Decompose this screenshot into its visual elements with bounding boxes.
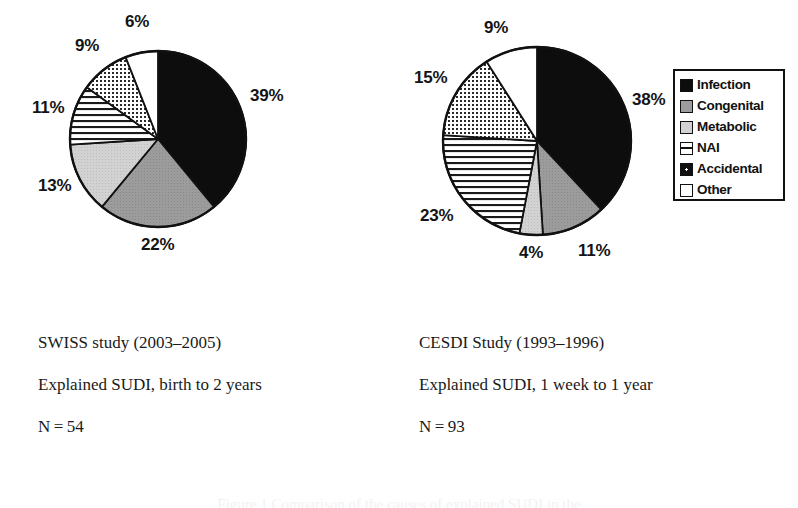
legend-label-nai: NAI (697, 141, 719, 155)
figure-root: 39%22%13%11%9%6% 38%11%4%23%15%9% Infect… (0, 0, 798, 508)
caption-line: SWISS study (2003–2005) (38, 333, 262, 353)
legend-item-accidental: Accidental (680, 159, 780, 179)
pie-value-label: 23% (420, 206, 453, 226)
legend-item-congenital: Congenital (680, 96, 780, 116)
pie-chart-cesdi (443, 47, 631, 235)
legend-swatch-other (680, 184, 693, 197)
pie-value-label: 38% (632, 90, 665, 110)
legend-swatch-infection (680, 79, 693, 92)
legend-label-infection: Infection (697, 78, 751, 92)
pie-value-label: 22% (141, 235, 174, 255)
pie-value-label: 15% (414, 68, 447, 88)
legend-label-accidental: Accidental (697, 162, 762, 176)
pie-value-label: 39% (250, 86, 283, 106)
legend-item-metabolic: Metabolic (680, 117, 780, 137)
pie-value-label: 4% (519, 243, 543, 263)
pie-value-label: 6% (125, 12, 149, 32)
caption-swiss: SWISS study (2003–2005)Explained SUDI, b… (38, 333, 262, 437)
legend-label-congenital: Congenital (697, 99, 764, 113)
legend-swatch-nai (680, 142, 693, 155)
pie-value-label: 13% (38, 176, 71, 196)
caption-line: N = 93 (419, 417, 653, 437)
pie-chart-swiss (70, 51, 246, 227)
pie-value-label: 9% (484, 18, 508, 38)
legend-label-other: Other (697, 183, 732, 197)
legend: Infection Congenital Metabolic NAI Accid… (673, 69, 785, 201)
legend-swatch-accidental (680, 163, 693, 176)
pie-value-label: 11% (32, 98, 65, 118)
pie-value-label: 9% (75, 36, 99, 56)
figure-caption: Figure 1 Comparison of the causes of exp… (0, 496, 798, 508)
caption-line: CESDI Study (1993–1996) (419, 333, 653, 353)
legend-item-nai: NAI (680, 138, 780, 158)
caption-line: Explained SUDI, birth to 2 years (38, 375, 262, 395)
legend-swatch-congenital (680, 100, 693, 113)
legend-item-other: Other (680, 180, 780, 200)
caption-line: N = 54 (38, 417, 262, 437)
pie-value-label: 11% (578, 241, 611, 261)
caption-cesdi: CESDI Study (1993–1996)Explained SUDI, 1… (419, 333, 653, 437)
caption-line: Explained SUDI, 1 week to 1 year (419, 375, 653, 395)
pie-slice-nai (443, 135, 537, 233)
legend-swatch-metabolic (680, 121, 693, 134)
legend-item-infection: Infection (680, 75, 780, 95)
legend-label-metabolic: Metabolic (697, 120, 757, 134)
